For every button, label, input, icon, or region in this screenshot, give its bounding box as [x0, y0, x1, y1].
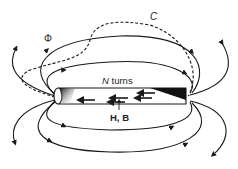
turns-text: turns [109, 75, 133, 86]
field-line-outer-left-low [13, 100, 55, 143]
turns-variable: N [102, 75, 109, 86]
contour-label: C [150, 12, 157, 22]
turns-label: N turns [102, 76, 133, 86]
field-line-outer-right-low [190, 101, 226, 155]
solenoid-diagram: Φ C N turns H, B [0, 0, 238, 169]
field-label: H, B [110, 113, 129, 123]
field-line-lower-mid [38, 102, 201, 152]
flux-label: Φ [44, 34, 52, 44]
